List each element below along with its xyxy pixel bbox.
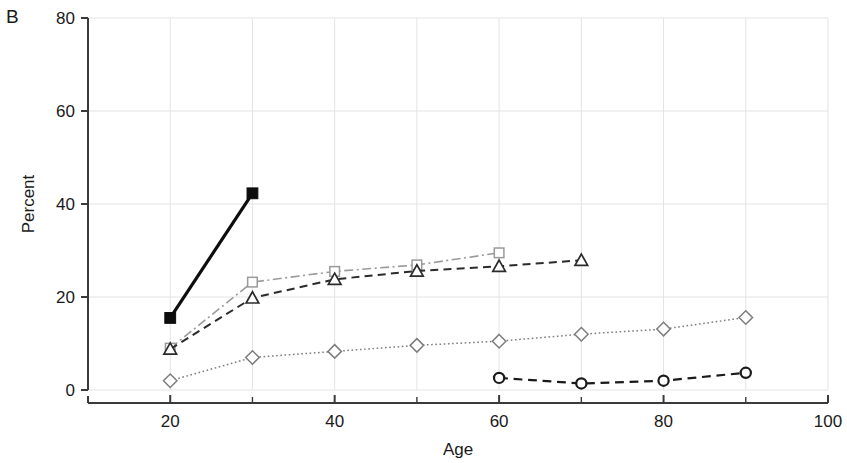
- data-point-open-diamond: [246, 351, 260, 365]
- data-point-filled-square: [165, 313, 176, 324]
- y-axis-title: Percent: [19, 174, 38, 233]
- x-axis-tick-label: 20: [161, 412, 180, 431]
- data-point-open-diamond: [163, 374, 177, 388]
- data-point-open-circle: [494, 373, 504, 383]
- data-point-open-circle: [658, 376, 668, 386]
- x-axis-title: Age: [443, 440, 473, 459]
- line-chart: 02040608020406080100 AgePercent: [0, 0, 847, 463]
- x-axis-tick-label: 60: [490, 412, 509, 431]
- axes: [81, 18, 828, 403]
- y-axis-tick-label: 60: [56, 102, 75, 121]
- tick-labels: 02040608020406080100: [56, 9, 842, 431]
- series-line: [170, 260, 581, 349]
- x-axis-tick-label: 40: [325, 412, 344, 431]
- data-point-open-circle: [576, 378, 586, 388]
- data-point-open-diamond: [328, 345, 342, 359]
- grid-lines: [88, 18, 828, 390]
- data-point-open-diamond: [492, 334, 506, 348]
- series-line: [170, 193, 252, 318]
- data-point-open-square: [494, 248, 504, 258]
- data-point-open-circle: [741, 368, 751, 378]
- y-axis-tick-label: 40: [56, 195, 75, 214]
- y-axis-tick-label: 80: [56, 9, 75, 28]
- data-point-open-square: [248, 277, 258, 287]
- data-point-open-diamond: [575, 327, 589, 341]
- data-series-layer: [163, 188, 752, 389]
- x-axis-tick-label: 100: [814, 412, 842, 431]
- y-axis-tick-label: 20: [56, 288, 75, 307]
- chart-page: B 02040608020406080100 AgePercent: [0, 0, 847, 463]
- y-axis-tick-label: 0: [66, 381, 75, 400]
- series-line: [499, 373, 746, 384]
- x-axis-tick-label: 80: [654, 412, 673, 431]
- data-point-open-diamond: [739, 311, 753, 325]
- data-point-open-diamond: [410, 339, 424, 353]
- data-point-open-diamond: [657, 322, 671, 336]
- series-open-circle-series: [494, 368, 751, 389]
- data-point-filled-square: [247, 188, 258, 199]
